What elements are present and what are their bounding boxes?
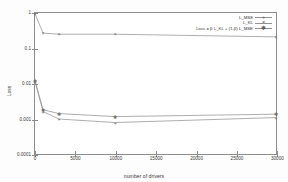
legend-marker-star-icon: ✱ [255, 26, 272, 31]
data-point-marker: × [114, 31, 117, 37]
series-3: ✱✱✱✱✱ [33, 78, 278, 120]
x-tick-label: 0 [34, 157, 37, 162]
data-point-marker: + [58, 116, 61, 122]
chart-legend: L_MSE + L_KL × Loss = β L_KL + (1-β) L_M… [194, 14, 274, 33]
x-tick-label: 15000 [150, 157, 163, 162]
y-tick-label: 0.01 [22, 82, 31, 87]
data-point-marker: ✱ [57, 111, 61, 117]
y-tick-label: 0.0001 [17, 153, 31, 158]
plot-area: 1 0.1 0.01 0.001 0.0001 0 5000 10000 [34, 12, 277, 155]
y-tick-label: 0.1 [25, 46, 31, 51]
data-point-marker: ✱ [41, 107, 45, 113]
data-point-marker: × [58, 31, 61, 37]
x-tick-label: 10000 [109, 157, 122, 162]
x-tick-label: 20000 [190, 157, 203, 162]
data-point-marker: ✱ [33, 78, 37, 84]
x-tick-label: 30000 [271, 157, 284, 162]
x-tick-label: 5000 [70, 157, 80, 162]
legend-label: L_KL [243, 21, 253, 25]
series-1: +++++ [33, 78, 277, 125]
y-tick-label: 0.001 [20, 117, 32, 122]
data-point-marker: × [33, 11, 36, 17]
x-axis-title: number of drivers [124, 173, 164, 179]
data-point-marker: × [274, 34, 277, 40]
series-line [35, 81, 276, 122]
data-point-marker: ✱ [274, 111, 278, 117]
legend-item[interactable]: Loss = β L_KL + (1-β) L_MSE ✱ [196, 26, 272, 32]
x-tick-label: 25000 [231, 157, 244, 162]
data-series-layer: +++++×××××✱✱✱✱✱ [35, 13, 276, 154]
series-line [35, 81, 276, 117]
data-point-marker: + [114, 120, 117, 126]
data-point-marker: × [42, 30, 45, 36]
data-point-marker: ✱ [113, 114, 117, 120]
legend-label: Loss = β L_KL + (1-β) L_MSE [196, 27, 253, 31]
y-axis-title: Loss [6, 86, 12, 97]
chart-figure: Loss number of drivers 1 0.1 0.01 0.001 … [0, 0, 288, 182]
y-tick-label: 1 [28, 11, 31, 16]
